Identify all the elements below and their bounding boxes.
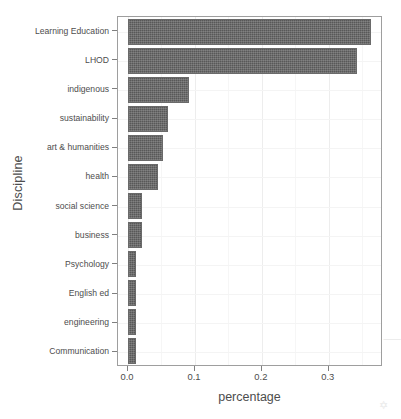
bar-slot: [118, 249, 381, 278]
y-axis-tick-label: social science: [24, 191, 110, 220]
y-axis-tick-label: business: [24, 220, 110, 249]
bar-slot: [118, 307, 381, 336]
y-axis-tick-label: Communication: [24, 337, 110, 366]
bar: [128, 193, 142, 219]
bar: [128, 77, 189, 103]
bar: [128, 251, 136, 277]
bar-slot: [118, 162, 381, 191]
bar: [128, 338, 136, 364]
y-axis-title-text: Discipline: [11, 155, 25, 211]
bar-slot: [118, 278, 381, 307]
y-axis-tick-label: Psychology: [24, 249, 110, 278]
y-axis-tick-label: sustainability: [24, 104, 110, 133]
x-axis-tick-label: 0.3: [321, 371, 334, 382]
bar-slot: [118, 191, 381, 220]
y-axis-tick-label: English ed: [24, 279, 110, 308]
x-axis-title: percentage: [117, 390, 382, 404]
bar-slot: [118, 75, 381, 104]
bar-slot: [118, 104, 381, 133]
scan-artifact: ⸺: [383, 330, 401, 346]
bar: [128, 309, 136, 335]
y-axis-tick-label: art & humanities: [24, 133, 110, 162]
y-axis-tick-label: LHOD: [24, 45, 110, 74]
y-axis-tick-label: Learning Education: [24, 16, 110, 45]
x-axis-tick-label: 0.2: [254, 371, 267, 382]
x-axis-tick-labels: 0.00.10.20.3: [117, 371, 382, 385]
y-axis-tick-labels: Learning EducationLHODindigenoussustaina…: [24, 16, 110, 366]
y-axis-tick-label: engineering: [24, 308, 110, 337]
x-axis-tick-label: 0.0: [121, 371, 134, 382]
x-axis-tick-label: 0.1: [187, 371, 200, 382]
bar-slot: [118, 220, 381, 249]
bar: [128, 48, 357, 74]
bar-slot: [118, 336, 381, 365]
bar: [128, 164, 158, 190]
bar: [128, 19, 371, 45]
bar-slot: [118, 17, 381, 46]
y-axis-tick-label: indigenous: [24, 74, 110, 103]
plot-panel: [117, 16, 382, 366]
bar: [128, 106, 168, 132]
bar-series: [118, 17, 381, 365]
bar-slot: [118, 46, 381, 75]
bar: [128, 222, 142, 248]
bar-slot: [118, 133, 381, 162]
bar: [128, 280, 136, 306]
bar: [128, 135, 163, 161]
y-axis-tick-label: health: [24, 162, 110, 191]
